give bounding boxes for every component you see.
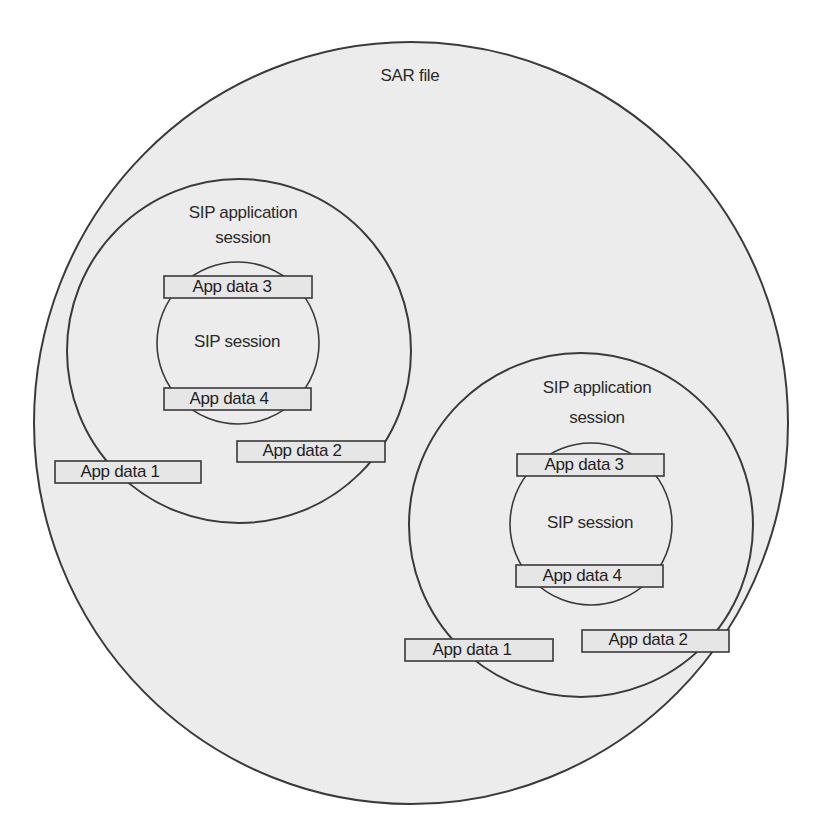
app-data-2-box: App data 2 bbox=[582, 630, 729, 652]
app-data-1-label: App data 1 bbox=[80, 462, 159, 481]
sip-application-session-label-line2: session bbox=[215, 228, 271, 247]
app-data-3-box: App data 3 bbox=[517, 454, 664, 476]
app-data-2-label: App data 2 bbox=[262, 441, 341, 460]
sar-file-label: SAR file bbox=[380, 66, 439, 85]
sip-session-label: SIP session bbox=[547, 513, 633, 532]
sar-file-diagram: SAR file SIP application session SIP ses… bbox=[0, 0, 820, 833]
sip-session-label: SIP session bbox=[194, 332, 280, 351]
sip-application-session-label-line1: SIP application bbox=[189, 203, 298, 222]
app-data-4-label: App data 4 bbox=[189, 389, 268, 408]
sip-application-session-label-line2: session bbox=[569, 408, 625, 427]
sip-application-session-label-line1: SIP application bbox=[543, 378, 652, 397]
sip-session-1: SIP session App data 3 App data 4 bbox=[157, 262, 319, 424]
app-data-1-label: App data 1 bbox=[432, 640, 511, 659]
app-data-2-label: App data 2 bbox=[608, 630, 687, 649]
app-data-4-label: App data 4 bbox=[542, 566, 621, 585]
app-data-1-box: App data 1 bbox=[405, 639, 553, 661]
app-data-4-box: App data 4 bbox=[516, 565, 663, 587]
app-data-1-box: App data 1 bbox=[55, 461, 201, 483]
app-data-3-box: App data 3 bbox=[164, 276, 312, 298]
app-data-2-box: App data 2 bbox=[237, 441, 385, 462]
app-data-4-box: App data 4 bbox=[164, 388, 311, 410]
sip-session-2: SIP session App data 3 App data 4 bbox=[510, 443, 672, 605]
app-data-3-label: App data 3 bbox=[544, 455, 623, 474]
app-data-3-label: App data 3 bbox=[192, 277, 271, 296]
